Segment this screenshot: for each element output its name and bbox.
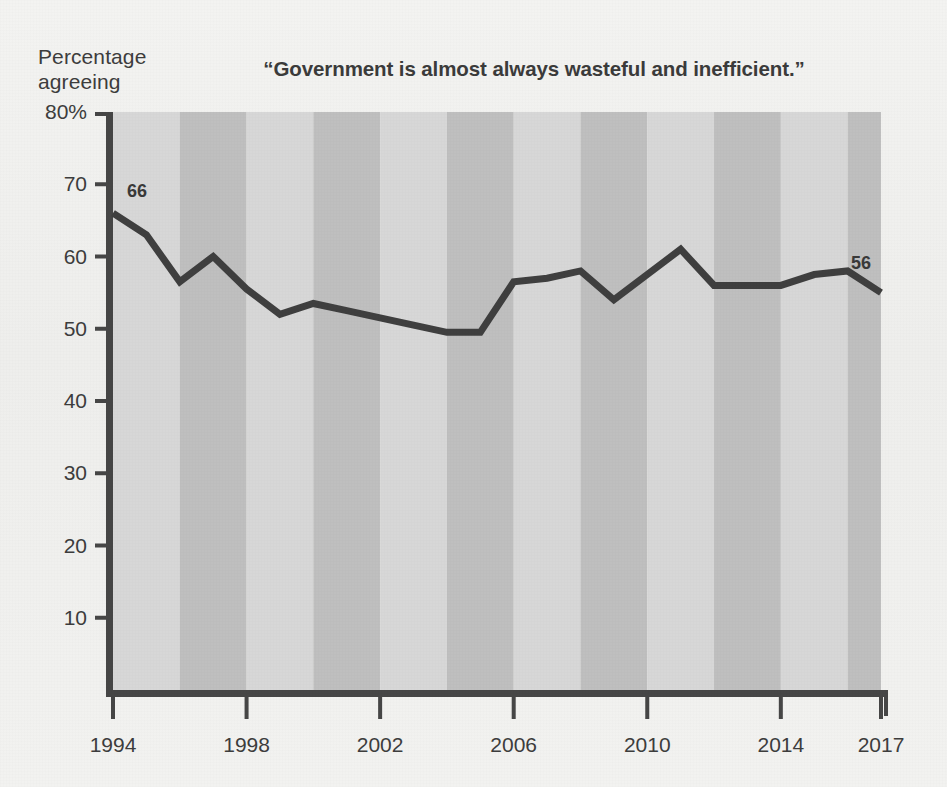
data-point-label: 56 — [851, 253, 871, 273]
stripe-band — [313, 112, 380, 690]
y-tick-label: 20 — [64, 534, 87, 557]
x-axis-line — [106, 690, 888, 697]
x-tick-label: 1998 — [223, 733, 270, 756]
stripe-band — [447, 112, 514, 690]
chart-plot-area: 80%70605040302010 1994199820022006201020… — [0, 0, 947, 787]
data-point-label: 66 — [127, 181, 147, 201]
stripe-band — [380, 112, 447, 690]
y-axis-line — [106, 112, 113, 697]
x-axis-ticks: 1994199820022006201020142017 — [90, 697, 905, 756]
y-tick-label: 80% — [45, 100, 87, 123]
x-tick-label: 2014 — [757, 733, 804, 756]
x-tick — [645, 697, 649, 719]
x-tick — [111, 697, 115, 719]
x-tick — [779, 697, 783, 719]
stripe-band — [180, 112, 247, 690]
y-tick-label: 40 — [64, 389, 87, 412]
y-tick — [95, 327, 106, 331]
x-axis-end-cap — [884, 690, 888, 716]
y-tick-label: 70 — [64, 172, 87, 195]
y-tick — [95, 255, 106, 259]
y-axis-ticks: 80%70605040302010 — [45, 100, 106, 629]
x-tick-label: 1994 — [90, 733, 137, 756]
stripe-band — [247, 112, 314, 690]
y-tick — [95, 182, 106, 186]
x-tick — [879, 697, 883, 719]
stripe-band — [514, 112, 581, 690]
stripe-band — [848, 112, 881, 690]
y-axis-top-tick — [95, 112, 106, 116]
x-tick-label: 2017 — [858, 733, 905, 756]
x-tick-label: 2002 — [357, 733, 404, 756]
x-tick-label: 2006 — [490, 733, 537, 756]
y-tick — [95, 616, 106, 620]
line-chart-svg: 80%70605040302010 1994199820022006201020… — [0, 0, 947, 787]
y-tick — [95, 544, 106, 548]
y-tick-label: 60 — [64, 245, 87, 268]
y-tick — [95, 399, 106, 403]
stripe-band — [714, 112, 781, 690]
y-tick-label: 10 — [64, 606, 87, 629]
stripe-band — [580, 112, 647, 690]
x-tick-label: 2010 — [624, 733, 671, 756]
y-tick-label: 50 — [64, 317, 87, 340]
x-tick — [512, 697, 516, 719]
stripe-band — [647, 112, 714, 690]
x-tick — [245, 697, 249, 719]
y-tick-label: 30 — [64, 461, 87, 484]
stripe-band — [781, 112, 848, 690]
x-tick — [378, 697, 382, 719]
y-tick — [95, 471, 106, 475]
background-stripes — [113, 112, 881, 690]
